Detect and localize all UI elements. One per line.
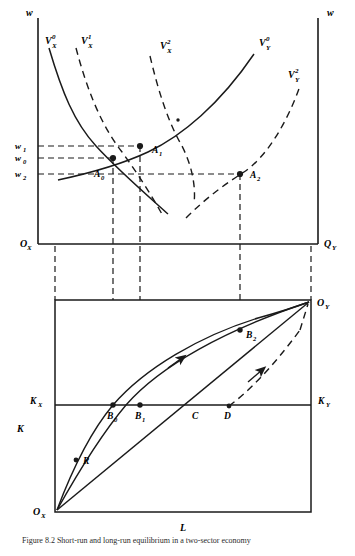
svg-text:X: X [40, 512, 46, 520]
svg-text:B: B [134, 411, 141, 421]
capital-label-kx: K X [29, 396, 43, 408]
wage-tick-w0: w 0 [15, 153, 27, 165]
bottom-origin-y-label: O Y [317, 297, 330, 311]
curve-label-VY0: V 0 Y [259, 35, 271, 52]
bottom-vertical-axis-label: K [16, 423, 25, 434]
curve-VY0 [58, 54, 254, 180]
svg-text:0: 0 [266, 35, 270, 43]
svg-text:B: B [245, 330, 252, 340]
svg-text:1: 1 [88, 33, 92, 41]
svg-text:Q: Q [324, 238, 331, 249]
point-label-b1: B 1 [134, 411, 145, 423]
svg-text:0: 0 [23, 158, 27, 165]
point-label-r: R [82, 456, 89, 466]
svg-text:A: A [249, 170, 256, 180]
equilibrium-label-A1: A 1 [151, 145, 162, 157]
point-label-d: D [223, 411, 231, 421]
svg-text:B: B [106, 411, 113, 421]
svg-text:O: O [33, 506, 40, 517]
svg-text:1: 1 [23, 146, 26, 153]
equilibrium-dot-A0 [110, 155, 116, 161]
svg-text:2: 2 [294, 67, 299, 75]
svg-text:2: 2 [22, 174, 27, 181]
svg-text:X: X [37, 401, 43, 408]
point-r-dot [74, 458, 79, 463]
svg-text:0: 0 [52, 33, 56, 41]
path-adjustment-d [229, 330, 300, 406]
svg-text:X: X [51, 42, 57, 50]
svg-text:K: K [29, 396, 37, 406]
curve-label-VX2: V 2 X [160, 38, 172, 55]
figure-caption: Figure 8.2 Short-run and long-run equili… [22, 536, 342, 546]
svg-text:w: w [15, 153, 22, 163]
top-right-axis-label: w [327, 7, 334, 18]
point-b2-dot [237, 327, 242, 332]
svg-text:A: A [151, 145, 158, 155]
svg-text:1: 1 [159, 150, 162, 157]
top-left-origin-label: O X [20, 238, 32, 252]
bottom-horizontal-axis-label: L [179, 522, 186, 533]
bottom-panel: B 0 B 1 B 2 C D R K X K Y K L O X [16, 297, 331, 533]
svg-text:2: 2 [252, 335, 257, 342]
svg-text:Y: Y [295, 76, 300, 84]
figure-container: w w O X Q Y V 0 X V 1 X [0, 0, 355, 556]
svg-text:2: 2 [256, 175, 261, 182]
curve-VY2 [186, 86, 300, 218]
curve-intersection-dot [176, 118, 179, 121]
top-left-axis-label: w [26, 7, 33, 18]
svg-text:Y: Y [325, 303, 330, 311]
top-panel: w w O X Q Y V 0 X V 1 X [15, 7, 337, 300]
svg-text:K: K [317, 396, 325, 406]
svg-text:X: X [87, 42, 93, 50]
svg-text:Y: Y [266, 44, 271, 52]
svg-text:Y: Y [332, 244, 337, 252]
svg-text:w: w [15, 169, 22, 179]
capital-label-ky: K Y [317, 396, 331, 408]
point-b0-dot [110, 402, 115, 407]
arrow-expansion-path [168, 358, 182, 368]
equilibrium-label-A2: A 2 [249, 170, 261, 182]
point-label-b2: B 2 [245, 330, 257, 342]
top-right-origin-label: Q Y [324, 238, 337, 252]
svg-text:0: 0 [101, 174, 105, 181]
curve-label-VX1: V 1 X [81, 33, 93, 50]
svg-text:0: 0 [114, 416, 118, 423]
point-b1-dot [137, 402, 142, 407]
svg-text:A: A [93, 169, 100, 179]
path-ray-origin-c [57, 302, 309, 510]
point-label-b0: B 0 [106, 411, 118, 423]
economics-figure-svg: w w O X Q Y V 0 X V 1 X [0, 0, 355, 556]
point-d-dot [227, 404, 232, 409]
svg-text:O: O [317, 297, 324, 308]
equilibrium-dot-A1 [137, 143, 143, 149]
svg-text:2: 2 [166, 38, 171, 46]
svg-text:Y: Y [326, 401, 331, 408]
curve-VX1 [76, 48, 163, 216]
arrow-adjustment-path [248, 370, 262, 382]
wage-tick-w2: w 2 [15, 169, 27, 181]
svg-text:1: 1 [142, 416, 145, 423]
svg-text:w: w [15, 141, 22, 151]
point-label-c: C [192, 411, 199, 421]
equilibrium-dot-A2 [237, 171, 243, 177]
curve-label-VY2: V 2 Y [288, 67, 300, 84]
svg-text:X: X [166, 47, 172, 55]
curve-label-VX0: V 0 X [45, 33, 57, 50]
equilibrium-label-A0: A 0 [93, 169, 105, 181]
curve-VX2 [150, 56, 195, 204]
svg-text:X: X [26, 244, 32, 252]
bottom-origin-x-label: O X [33, 506, 46, 520]
wage-tick-w1: w 1 [15, 141, 26, 153]
